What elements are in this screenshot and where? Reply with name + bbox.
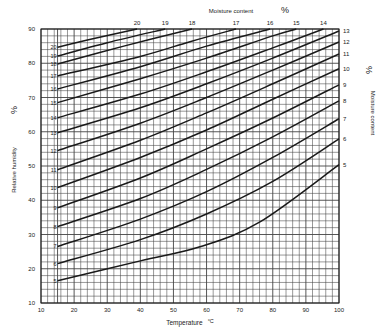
curve-top-label: 20 [134,20,141,26]
moisture-curve-9 [58,85,339,208]
top-axis-unit: % [281,5,289,15]
curve-top-labels: 20191817161514 [134,20,328,26]
curve-right-label: 9 [343,82,347,88]
curve-right-label: 6 [343,136,347,142]
curve-start-label: 14 [50,115,56,121]
y-tick-label: 60 [28,129,35,135]
moisture-curves [58,29,339,281]
x-tick-label: 40 [137,307,144,313]
x-axis-label: Temperature°C [166,318,214,327]
x-tick-label: 90 [303,307,310,313]
curve-right-label: 10 [343,66,350,72]
top-axis-title: Moisture content [209,8,254,14]
curve-start-label: 19 [50,53,56,59]
curve-top-label: 19 [162,20,169,26]
curve-start-label: 18 [50,61,56,67]
curve-start-label: 7 [53,243,56,249]
moisture-curve-6 [58,139,339,264]
curve-start-label: 5 [53,278,56,284]
curve-right-label: 11 [343,51,350,57]
moisture-content-chart: 102030405060708090 102030405060708090100… [0,0,380,328]
y-tick-label: 40 [28,197,35,203]
curve-right-label: 13 [343,28,350,34]
curve-start-label: 16 [50,86,56,92]
y-axis-label: Relative humidity [11,147,17,193]
y-tick-label: 20 [28,266,35,272]
moisture-curve-16 [58,29,271,89]
curve-start-label: 20 [50,44,56,50]
chart-svg: 102030405060708090 102030405060708090100… [0,0,380,328]
curve-right-label: 5 [343,162,347,168]
curve-start-label: 12 [50,148,56,154]
curve-right-label: 7 [343,116,347,122]
curve-start-label: 13 [50,130,56,136]
right-axis-unit: % [364,66,374,74]
curve-top-label: 17 [233,20,240,26]
x-tick-label: 30 [104,307,111,313]
curve-start-label: 9 [53,205,56,211]
curve-start-label: 17 [50,73,56,79]
moisture-curve-7 [58,119,339,247]
curve-top-label: 16 [267,20,274,26]
curve-start-label: 10 [50,185,56,191]
y-tick-label: 10 [28,300,35,306]
curve-start-labels: 567891011121314151617181920 [50,44,56,284]
y-tick-label: 70 [28,95,35,101]
curve-top-label: 18 [189,20,196,26]
x-tick-label: 60 [203,307,210,313]
y-tick-label: 50 [28,163,35,169]
x-tick-label: 70 [236,307,243,313]
curve-start-label: 6 [53,261,56,267]
y-tick-label: 30 [28,232,35,238]
curve-start-label: 11 [51,167,57,173]
x-tick-label: 80 [269,307,276,313]
x-axis-ticks: 102030405060708090100 [38,307,345,313]
curve-right-label: 12 [343,39,350,45]
y-tick-label: 90 [28,26,35,32]
curve-right-labels: 1312111098765 [343,28,350,168]
x-tick-label: 100 [334,307,345,313]
curve-top-label: 14 [320,20,327,26]
right-axis-title: Moisture content [370,91,376,136]
moisture-curve-15 [58,29,297,103]
curve-start-label: 15 [50,100,56,106]
curve-start-label: 8 [53,224,56,230]
moisture-curve-5 [58,165,339,281]
curve-top-label: 15 [293,20,300,26]
y-axis-ticks: 102030405060708090 [28,26,35,306]
x-tick-label: 20 [71,307,78,313]
x-tick-label: 50 [170,307,177,313]
moisture-curve-13 [58,31,339,133]
y-axis-unit: % [9,106,19,114]
curve-right-label: 8 [343,98,347,104]
y-tick-label: 80 [28,60,35,66]
x-tick-label: 10 [38,307,45,313]
